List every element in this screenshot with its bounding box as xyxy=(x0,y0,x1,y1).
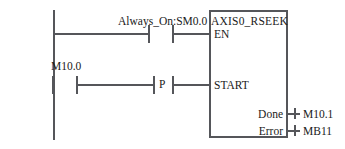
rung-1-wire-left xyxy=(53,33,149,35)
edge-contact-bar-left[interactable] xyxy=(153,76,155,94)
function-block-output-error: Error xyxy=(229,126,283,138)
contact-bar-left-rung-2[interactable] xyxy=(52,76,54,94)
output-tick-error xyxy=(294,125,296,136)
function-block-output-done: Done xyxy=(229,109,283,121)
contact-label-always-on: Always_On:SM0.0 xyxy=(118,16,207,28)
function-block-input-start: START xyxy=(214,80,249,92)
output-operand-error: MB11 xyxy=(303,126,332,138)
ladder-diagram-canvas: Always_On:SM0.0 M10.0 P AXIS0_RSEEK EN S… xyxy=(0,0,345,149)
left-power-rail xyxy=(53,10,55,140)
edge-contact-label-p: P xyxy=(159,79,165,91)
contact-bar-left-rung-1[interactable] xyxy=(148,25,150,43)
function-block-title: AXIS0_RSEEK xyxy=(211,15,286,27)
contact-label-m10-0: M10.0 xyxy=(51,61,81,73)
rung-2-wire-right xyxy=(172,84,210,86)
rung-2-wire-middle xyxy=(76,84,154,86)
function-block-input-en: EN xyxy=(214,29,229,41)
output-operand-done: M10.1 xyxy=(303,109,333,121)
rung-1-wire-right xyxy=(172,33,210,35)
output-tick-done xyxy=(294,108,296,119)
